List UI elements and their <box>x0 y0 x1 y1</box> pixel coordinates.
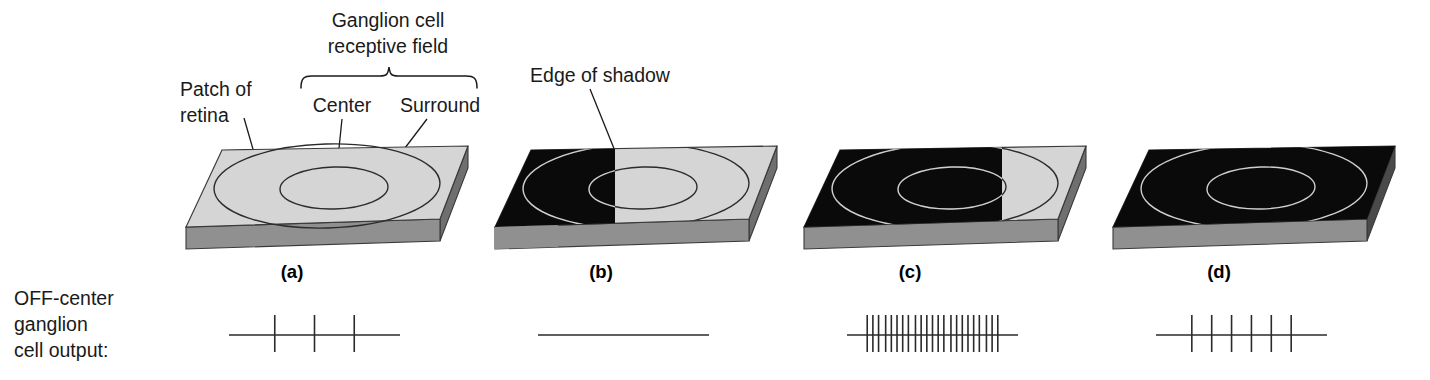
spike-train-group <box>229 315 1327 352</box>
retina-receptive-field-figure: Ganglion cell receptive field Center Sur… <box>0 0 1430 380</box>
panel-b: (b) <box>480 138 777 282</box>
edge-of-shadow-leader-line <box>590 89 615 151</box>
panel-label-b: (b) <box>589 261 613 282</box>
slab-top-face-a <box>186 146 468 227</box>
ganglion-field-title-line1: Ganglion cell <box>332 9 445 31</box>
panel-label-a: (a) <box>281 261 304 282</box>
center-label: Center <box>313 94 372 116</box>
slab-front-face-shadow-b <box>495 225 558 249</box>
edge-of-shadow-label: Edge of shadow <box>530 64 671 86</box>
spike-train-a <box>229 315 400 352</box>
output-label-line3: cell output: <box>14 339 108 361</box>
receptive-field-brace <box>301 67 477 88</box>
ganglion-field-title-line2: receptive field <box>328 35 448 57</box>
patch-of-retina-line2: retina <box>180 104 229 126</box>
shadow-region-b <box>480 138 615 238</box>
patch-of-retina-line1: Patch of <box>180 78 252 100</box>
spike-train-c <box>847 315 1018 352</box>
panel-a: (a) <box>186 141 468 282</box>
spike-train-d <box>1156 315 1327 352</box>
panel-d: (d) <box>1098 138 1408 282</box>
surround-label: Surround <box>400 94 480 116</box>
panel-c: (c) <box>789 138 1086 282</box>
panel-label-c: (c) <box>899 261 922 282</box>
panel-label-d: (d) <box>1207 261 1231 282</box>
output-label-line1: OFF-center <box>14 287 114 309</box>
output-label-line2: ganglion <box>14 313 88 335</box>
